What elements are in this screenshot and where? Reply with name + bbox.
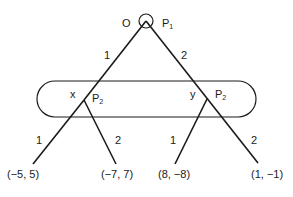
root-edge-1-label: 1 <box>104 49 110 61</box>
node-y-label: y <box>190 88 196 100</box>
payoff-leaf-1: (−5, 5) <box>7 168 39 180</box>
payoff-leaf-2: (−7, 7) <box>101 168 133 180</box>
root-edge-2-label: 2 <box>181 49 187 61</box>
node-x-label: x <box>70 88 76 100</box>
edge-x-2 <box>84 100 116 164</box>
edge-y-2-label: 2 <box>251 134 257 146</box>
node-x-player-label: P2 <box>92 92 103 105</box>
edge-root-2 <box>146 21 258 163</box>
edge-y-1-label: 1 <box>170 134 176 146</box>
root-node-label: O <box>122 17 131 29</box>
payoff-leaf-4: (1, −1) <box>251 168 283 180</box>
game-tree-diagram: O P1 1 2 x P2 y P2 1 2 1 2 (−5, 5) (−7, … <box>0 0 293 197</box>
edge-x-2-label: 2 <box>115 134 121 146</box>
edge-x-1-label: 1 <box>36 134 42 146</box>
node-y-player-label: P2 <box>215 88 226 101</box>
root-player-label: P1 <box>162 17 173 30</box>
edge-y-1 <box>175 99 207 164</box>
payoff-leaf-3: (8, −8) <box>158 168 190 180</box>
edge-root-1 <box>84 21 146 100</box>
